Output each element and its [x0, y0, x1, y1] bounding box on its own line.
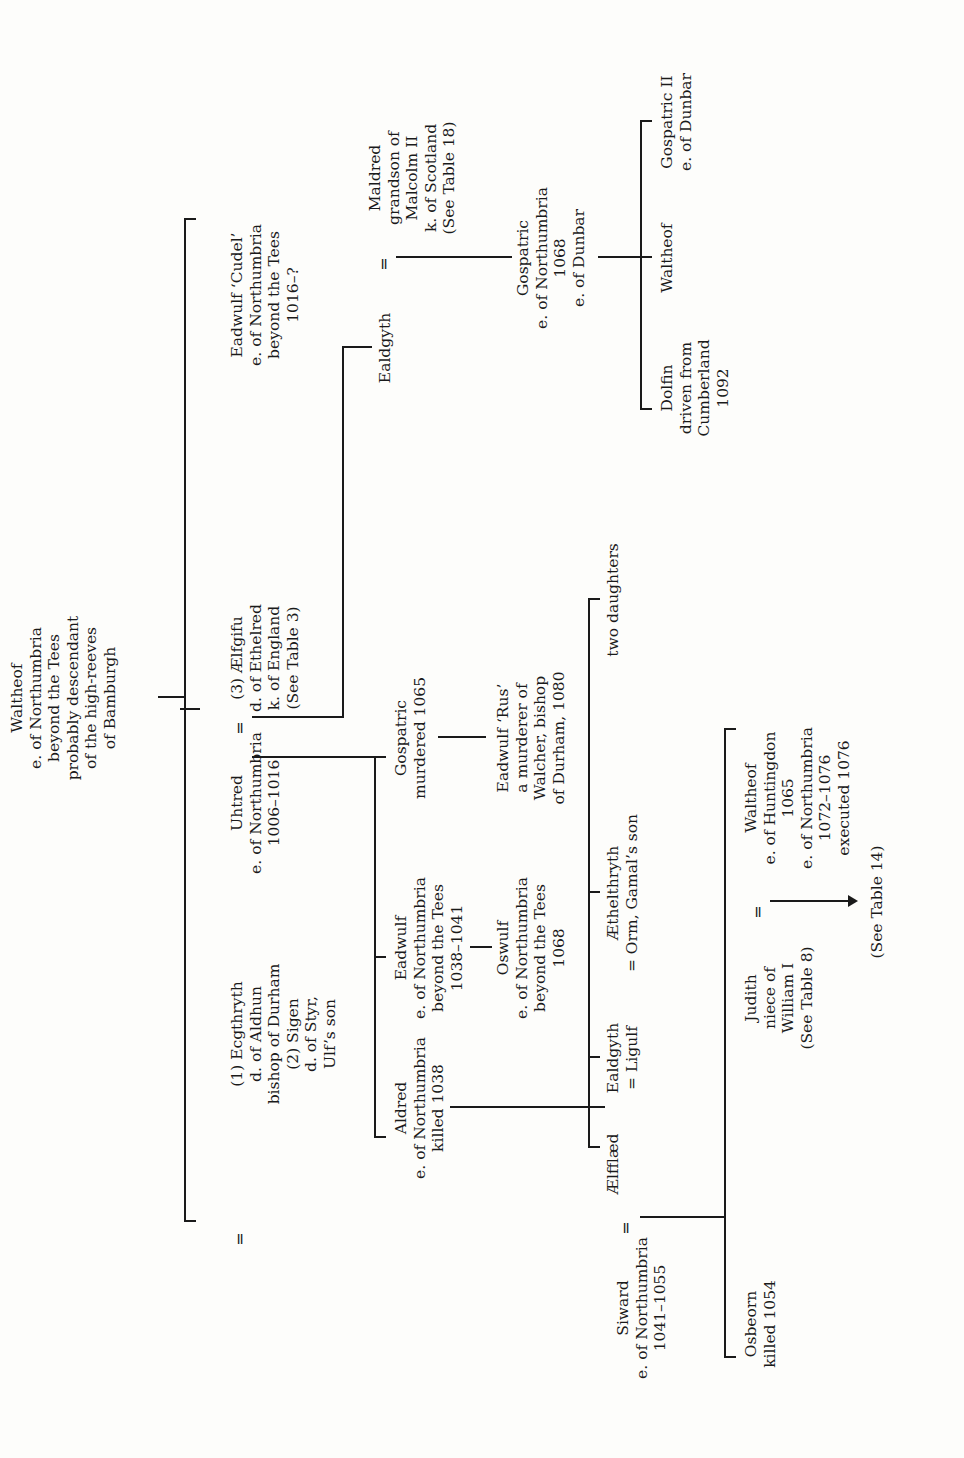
connector: [640, 408, 652, 410]
node-detail: (See Table 3): [284, 604, 303, 712]
node-osbeorn: Osbeorn killed 1054: [742, 1280, 779, 1368]
node-eadwulf-cudel: Eadwulf ‘Cudel’ e. of Northumbria beyond…: [228, 224, 302, 366]
connector: [438, 736, 486, 738]
node-detail: driven from: [677, 339, 696, 436]
node-name: Aldred: [392, 1037, 411, 1179]
node-name: Waltheof: [658, 223, 677, 292]
node-name: Siward: [614, 1237, 633, 1379]
connector: [588, 598, 600, 600]
node-detail: Walcher, bishop: [531, 671, 550, 804]
node-waltheof-root: Waltheof e. of Northumbria beyond the Te…: [8, 616, 119, 781]
node-waltheof-son-of-gospatric: Waltheof: [658, 223, 677, 292]
see-table-14-note: (See Table 14): [868, 845, 887, 958]
note-text: (See Table 14): [868, 845, 887, 958]
node-uhtred: Uhtred e. of Northumbria 1006–1016: [228, 732, 284, 874]
connector: [640, 120, 652, 122]
node-detail: of the high-reeves: [82, 616, 101, 781]
connector: [342, 346, 372, 348]
node-gospatric-dunbar: Gospatric e. of Northumbria 1068 e. of D…: [514, 187, 588, 329]
node-detail: beyond the Tees: [265, 224, 284, 366]
node-oswulf: Oswulf e. of Northumbria beyond the Tees…: [494, 877, 568, 1019]
node-detail: 1068: [551, 187, 570, 329]
marriage-sign: =: [750, 905, 766, 918]
connector: [470, 946, 492, 948]
connector: [588, 1146, 600, 1148]
node-detail: e. of Northumbria: [27, 616, 46, 781]
node-name: Gospatric: [514, 187, 533, 329]
connector: [724, 728, 726, 1218]
node-detail: e. of Northumbria: [533, 187, 552, 329]
node-detail: e. of Northumbria: [633, 1237, 652, 1379]
node-eadwulf-rus: Eadwulf ‘Rus’ a murderer of Walcher, bis…: [494, 671, 568, 804]
connector: [588, 891, 600, 893]
connector: [588, 1056, 600, 1058]
node-detail: a murderer of: [513, 671, 532, 804]
node-detail: killed 1038: [429, 1037, 448, 1179]
node-name: Dolfin: [658, 339, 677, 436]
node-ealdgyth: Ealdgyth: [376, 313, 395, 383]
node-detail: (See Table 8): [798, 946, 817, 1049]
connector-uhtred-aelfgifu: [252, 716, 342, 718]
node-name: Uhtred: [228, 732, 247, 874]
node-detail: d. of Ethelred: [247, 604, 266, 712]
node-dolfin: Dolfin driven from Cumberland 1092: [658, 339, 732, 436]
node-detail: probably descendant: [64, 616, 83, 781]
node-uhtred-wives-1-2: (1) Ecgthryth d. of Aldhun bishop of Dur…: [228, 964, 339, 1105]
node-name: Maldred: [366, 121, 385, 234]
node-two-daughters: two daughters: [604, 543, 623, 657]
node-name: (2) Sigen: [284, 964, 303, 1105]
node-detail: beyond the Tees: [531, 877, 550, 1019]
connector: [724, 728, 736, 730]
connector: [180, 708, 200, 710]
node-detail: e. of Dunbar: [677, 73, 696, 171]
node-name: (3) Ælfgifu: [228, 604, 247, 712]
node-detail: killed 1054: [761, 1280, 780, 1368]
node-detail: executed 1076: [835, 727, 854, 869]
connector: [184, 1220, 196, 1222]
node-detail: k. of England: [265, 604, 284, 712]
connector-root-drop: [158, 696, 184, 698]
node-name: Waltheof: [742, 727, 761, 869]
node-maldred: Maldred grandson of Malcolm II k. of Sco…: [366, 121, 459, 234]
node-judith: Judith niece of William I (See Table 8): [742, 946, 816, 1049]
node-waltheof-huntingdon: Waltheof e. of Huntingdon 1065 e. of Nor…: [742, 727, 853, 869]
node-detail: e. of Northumbria: [513, 877, 532, 1019]
node-detail: Ulf’s son: [321, 964, 340, 1105]
connector-gen4-siward-bar: [724, 1216, 726, 1358]
node-detail: Cumberland: [695, 339, 714, 436]
node-detail: = Orm, Gamal’s son: [623, 814, 642, 972]
connector-gen2-bar: [374, 756, 376, 1138]
node-aldred: Aldred e. of Northumbria killed 1038: [392, 1037, 448, 1179]
node-name: Ealdgyth: [376, 313, 395, 383]
marriage-sign: =: [232, 1232, 248, 1245]
node-name: Ælfflæd: [604, 1134, 623, 1195]
connector: [640, 256, 652, 258]
connector: [374, 1136, 386, 1138]
node-name: Waltheof: [8, 616, 27, 781]
node-detail: 1065: [779, 727, 798, 869]
connector-aldred-children-bar: [588, 598, 590, 1148]
arrow-down-icon: [848, 895, 858, 907]
node-name: Judith: [742, 946, 761, 1049]
node-name: Eadwulf: [392, 877, 411, 1019]
node-detail: e. of Northumbria: [411, 1037, 430, 1179]
marriage-sign: =: [232, 721, 248, 734]
node-name: Eadwulf ‘Rus’: [494, 671, 513, 804]
node-detail: d. of Aldhun: [247, 964, 266, 1105]
node-detail: 1092: [714, 339, 733, 436]
node-detail: Malcolm II: [403, 121, 422, 234]
node-detail: niece of: [761, 946, 780, 1049]
node-detail: e. of Northumbria: [247, 732, 266, 874]
node-detail: k. of Scotland: [422, 121, 441, 234]
node-detail: d. of Styr,: [302, 964, 321, 1105]
connector: [450, 1106, 605, 1108]
node-aethelthryth: Æthelthryth = Orm, Gamal’s son: [604, 814, 641, 972]
node-name: Gospatric II: [658, 73, 677, 171]
node-detail: grandson of: [385, 121, 404, 234]
node-detail: e. of Northumbria: [247, 224, 266, 366]
node-detail: e. of Northumbria: [411, 877, 430, 1019]
connector-ealdgyth-maldred: [396, 256, 512, 258]
node-detail: beyond the Tees: [45, 616, 64, 781]
node-detail: murdered 1065: [411, 677, 430, 799]
node-detail: 1016–?: [284, 224, 303, 366]
